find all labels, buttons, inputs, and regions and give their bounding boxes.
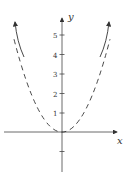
solid-left-branch	[15, 22, 24, 57]
x-axis-label: x	[117, 135, 123, 146]
tick-label-5: 5	[53, 32, 57, 40]
tick-label-2: 2	[53, 91, 57, 99]
solid-right-branch	[100, 22, 109, 57]
tick-label-4: 4	[53, 52, 58, 60]
tick-label-1: 1	[53, 110, 57, 118]
y-axis-label: y	[67, 11, 74, 22]
chart: 1 2 3 4 5 y x	[0, 0, 128, 178]
tick-label-3: 3	[53, 71, 57, 79]
